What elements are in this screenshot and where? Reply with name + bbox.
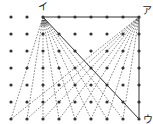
grid-dot <box>57 49 60 52</box>
grid-dot <box>9 32 12 35</box>
grid-dot <box>89 100 92 103</box>
dashed-line <box>59 17 139 119</box>
grid-dot <box>121 100 124 103</box>
grid-dot <box>9 49 12 52</box>
grid-dot <box>73 66 76 69</box>
grid-dot <box>57 32 60 35</box>
grid-dot <box>73 83 76 86</box>
grid-dot <box>89 66 92 69</box>
dashed-line <box>27 17 43 119</box>
grid-dot <box>9 100 12 103</box>
grid-dot <box>41 66 44 69</box>
grid-dot <box>137 15 140 18</box>
grid-dot <box>25 66 28 69</box>
grid-dot <box>137 49 140 52</box>
grid-dot <box>57 15 60 18</box>
grid-dot <box>73 49 76 52</box>
dashed-line <box>43 17 59 119</box>
grid-dot <box>73 100 76 103</box>
grid-dot <box>105 83 108 86</box>
dashed-line <box>91 17 139 119</box>
grid-dot <box>41 49 44 52</box>
dashed-line <box>43 17 91 119</box>
grid-dot <box>105 100 108 103</box>
grid-dot <box>89 83 92 86</box>
grid-dot <box>57 100 60 103</box>
grid-dot <box>41 100 44 103</box>
grid-dot <box>137 83 140 86</box>
label-u: ウ <box>143 114 153 124</box>
grid-dot <box>121 49 124 52</box>
grid-dot <box>137 117 140 120</box>
grid-dot <box>89 117 92 120</box>
grid-dot <box>41 83 44 86</box>
grid-dot <box>105 117 108 120</box>
grid-dot <box>25 32 28 35</box>
grid-dot <box>73 15 76 18</box>
grid-dot <box>137 100 140 103</box>
grid-dot <box>25 83 28 86</box>
grid-dot <box>25 15 28 18</box>
grid-dot <box>9 83 12 86</box>
grid-dot <box>105 49 108 52</box>
grid-dot <box>9 117 12 120</box>
grid-dot <box>121 32 124 35</box>
grid-dot <box>137 32 140 35</box>
grid-dot <box>105 15 108 18</box>
grid-dot <box>89 49 92 52</box>
grid-dot <box>89 32 92 35</box>
dashed-line <box>123 17 139 119</box>
label-a: ア <box>142 5 152 16</box>
grid-dot <box>121 66 124 69</box>
grid-diagram: イ ア ウ <box>0 0 153 124</box>
label-i: イ <box>38 1 48 12</box>
grid-dot <box>25 117 28 120</box>
grid-dot <box>41 15 44 18</box>
grid-dot <box>9 66 12 69</box>
grid-dot <box>57 83 60 86</box>
grid-dot <box>105 32 108 35</box>
grid-dot <box>25 49 28 52</box>
grid-dot <box>105 66 108 69</box>
grid-dot <box>137 66 140 69</box>
grid-dot <box>89 15 92 18</box>
grid-dot <box>121 83 124 86</box>
grid-dot <box>121 15 124 18</box>
grid-dots <box>9 15 140 120</box>
grid-dot <box>25 100 28 103</box>
grid-dot <box>41 32 44 35</box>
grid-dot <box>73 117 76 120</box>
grid-dot <box>57 117 60 120</box>
grid-dot <box>73 32 76 35</box>
grid-dot <box>121 117 124 120</box>
grid-dot <box>9 15 12 18</box>
grid-dot <box>57 66 60 69</box>
grid-dot <box>41 117 44 120</box>
